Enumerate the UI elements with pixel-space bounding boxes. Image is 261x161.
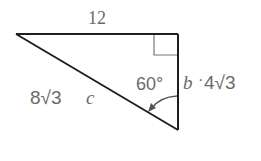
right-angle-marker [154,34,178,55]
label-side-b-dot: · [198,72,203,88]
label-hypotenuse-value: 8√3 [30,88,62,107]
right-triangle-diagram: 12 8√3 c 60° b · 4√3 [0,0,261,161]
label-angle: 60° [136,75,163,93]
label-top-side: 12 [88,9,106,27]
label-hypotenuse-var: c [86,88,94,107]
angle-arc [152,96,177,108]
label-side-b-var: b [183,73,193,92]
label-side-b-value: 4√3 [204,73,236,92]
